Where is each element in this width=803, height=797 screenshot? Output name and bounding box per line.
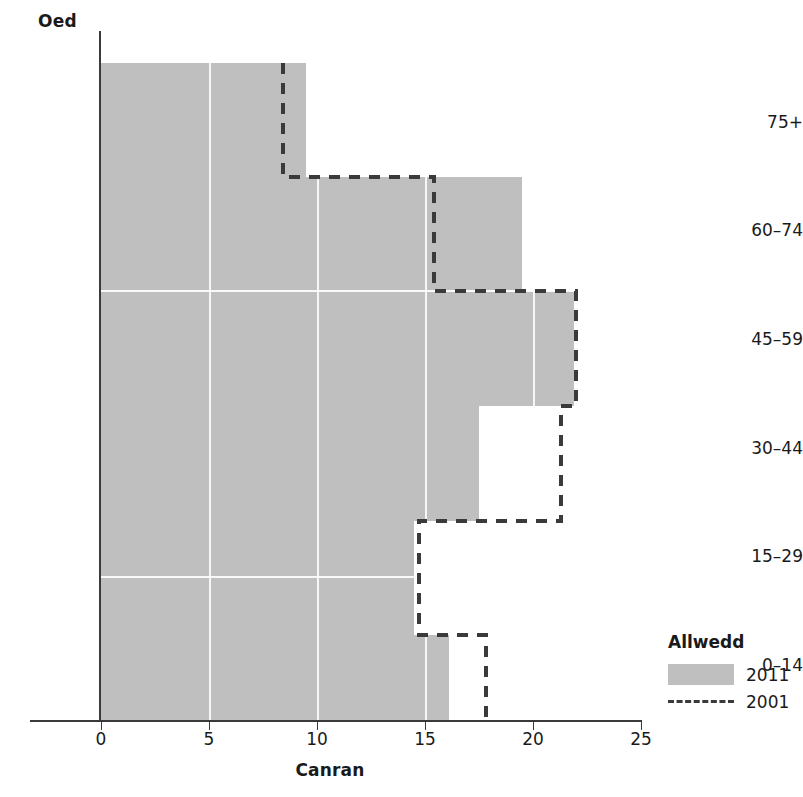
- legend-swatch-dashed-icon: [668, 700, 734, 703]
- gridline-x-20: [533, 31, 535, 721]
- y-tick-label-15-29: 15–29: [719, 546, 803, 566]
- y-axis-title: Oed: [38, 11, 77, 31]
- bar-2011-15-29: [101, 521, 414, 635]
- legend: Allwedd 2011 2001: [668, 632, 803, 715]
- x-axis-title: Canran: [0, 760, 660, 780]
- x-tick-label-25: 25: [630, 729, 652, 749]
- gridline-x-15: [425, 31, 427, 721]
- legend-item-2011[interactable]: 2011: [668, 661, 803, 688]
- legend-swatch-filled-icon: [668, 664, 734, 685]
- gridline-x-10: [317, 31, 319, 721]
- plot-area: [101, 31, 641, 721]
- x-tick-label-10: 10: [306, 729, 328, 749]
- bar-2011-45-59: [101, 291, 574, 406]
- bar-2011-0-14: [101, 635, 449, 721]
- legend-label-2011: 2011: [746, 665, 789, 685]
- chart-container: Oed 75+ 60–74 45–59 30–44 15–29 0–14: [0, 0, 803, 797]
- y-tick-label-60-74: 60–74: [719, 220, 803, 240]
- gridline-y-60-74: [101, 290, 574, 292]
- x-axis-line: [30, 720, 642, 722]
- gridline-x-5: [209, 31, 211, 721]
- x-tick-label-5: 5: [204, 729, 215, 749]
- x-tick-label-15: 15: [414, 729, 436, 749]
- x-tick-label-20: 20: [522, 729, 544, 749]
- bar-2011-75plus: [101, 63, 306, 177]
- bar-2011-30-44: [101, 406, 479, 521]
- legend-item-2001[interactable]: 2001: [668, 688, 803, 715]
- y-axis-line: [99, 31, 101, 721]
- y-tick-label-30-44: 30–44: [719, 438, 803, 458]
- x-tick-label-0: 0: [96, 729, 107, 749]
- legend-label-2001: 2001: [746, 692, 789, 712]
- y-tick-label-45-59: 45–59: [719, 329, 803, 349]
- bar-2011-60-74: [101, 177, 522, 291]
- gridline-y-15-29: [101, 576, 414, 578]
- legend-title: Allwedd: [668, 632, 803, 652]
- y-tick-label-75plus: 75+: [719, 112, 803, 132]
